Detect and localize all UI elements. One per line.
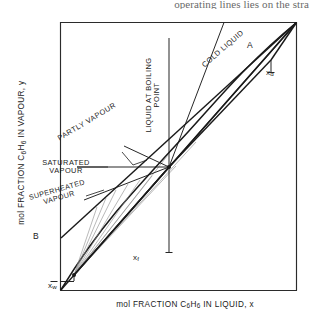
x-axis-label-tail: IN LIQUID, [201, 300, 247, 309]
tick-label-xf-sub: f [137, 255, 139, 262]
q-line-cold-liquid [169, 23, 224, 168]
tick-label-xf: xf [133, 254, 139, 263]
chord-xw-to-corner [74, 23, 297, 276]
tick-label-xw-sub: w [52, 283, 57, 290]
rectifying-operating-line [169, 60, 271, 167]
tick-label-xd: xd [266, 69, 274, 78]
x-axis-variable: x [249, 300, 253, 309]
y-axis-variable: y [17, 80, 26, 84]
tick-label-xd-sub: d [270, 70, 274, 77]
x-axis-label: mol FRACTION C6H6 IN LIQUID, x [60, 301, 310, 310]
annotation-saturated-vapour-line2: VAPOUR [30, 167, 102, 175]
annotation-liquid-boiling-line2: POINT [153, 41, 161, 149]
annotation-liquid-at-boiling-point: LIQUID AT BOILING POINT [145, 41, 161, 149]
x-axis-label-prefix: mol [116, 300, 130, 309]
point-label-b: B [33, 232, 39, 241]
y-axis-label-prefix: mol [17, 211, 26, 225]
annotation-saturated-vapour: SATURATED VAPOUR [30, 159, 102, 175]
feed-point-marker [167, 165, 171, 169]
y-axis-sub-1: 6 [20, 151, 27, 155]
y-axis-label-mid: H [17, 144, 26, 150]
y-axis-sub-2: 6 [20, 140, 27, 144]
point-label-a: A [247, 41, 253, 50]
y-axis-label-tail: IN VAPOUR, [17, 88, 26, 141]
tick-label-xw: xw [48, 282, 57, 291]
x-axis-label-main: FRACTION C [133, 300, 187, 309]
chord-b-to-corner [61, 23, 297, 239]
xw-point-marker [72, 273, 76, 277]
q-line-partly-vapour [124, 146, 169, 167]
vle-q-line-figure: operating lines lies on the stra [0, 0, 313, 318]
